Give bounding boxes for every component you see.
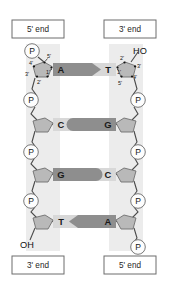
left-phosphate-1-label: P (29, 46, 35, 56)
left-carbon-5prime: 5' (47, 53, 51, 59)
dna-diagram-figure: A T C G G C T A (0, 0, 169, 292)
right-carbon-1prime: 1' (117, 69, 121, 75)
left-terminal-oh-label: OH (20, 240, 34, 250)
right-phosphate-3-label: P (135, 196, 141, 206)
left-carbon-2prime: 2' (37, 79, 41, 85)
left-phosphate-3-label: P (28, 147, 34, 157)
base-label-right-3: C (105, 169, 112, 180)
left-carbon-3prime: 3' (25, 71, 29, 77)
base-pair-row-2: C G (53, 118, 116, 131)
end-label-top-left-text: 5' end (27, 25, 49, 34)
right-terminal-ho-label: HO (133, 46, 147, 56)
end-label-bottom-left: 3' end (12, 256, 64, 274)
base-label-right-4: A (105, 216, 112, 227)
right-phosphate-1-label: P (135, 95, 141, 105)
end-label-bottom-right-text: 5' end (119, 261, 141, 270)
base-label-left-3: G (57, 169, 64, 180)
right-phosphate-2-label: P (135, 147, 141, 157)
end-label-top-right-text: 3' end (119, 25, 141, 34)
base-pair-row-3: G C (53, 168, 116, 181)
right-carbon-2prime: 2' (120, 55, 124, 61)
end-label-bottom-left-text: 3' end (27, 261, 49, 270)
base-label-left-2: C (58, 119, 65, 130)
base-pair-row-1: A T (53, 63, 116, 76)
end-label-top-right: 3' end (104, 20, 156, 38)
left-carbon-1prime: 1' (46, 69, 50, 75)
right-carbon-4prime: 4' (133, 74, 137, 80)
right-phosphate-4-label: P (135, 242, 141, 252)
left-phosphate-2-label: P (28, 95, 34, 105)
dna-diagram-canvas: A T C G G C T A (0, 0, 169, 292)
right-carbon-5prime: 5' (118, 80, 122, 86)
base-label-left-4: T (58, 216, 64, 227)
base-pair-row-4: T A (53, 215, 116, 228)
base-label-right-2: G (104, 119, 111, 130)
left-phosphate-4-label: P (28, 196, 34, 206)
base-label-left-1: A (58, 64, 65, 75)
left-carbon-4prime: 4' (29, 60, 33, 66)
end-label-bottom-right: 5' end (104, 256, 156, 274)
end-label-top-left: 5' end (12, 20, 64, 38)
right-carbon-3prime: 3' (137, 63, 141, 69)
base-label-right-1: T (105, 64, 111, 75)
